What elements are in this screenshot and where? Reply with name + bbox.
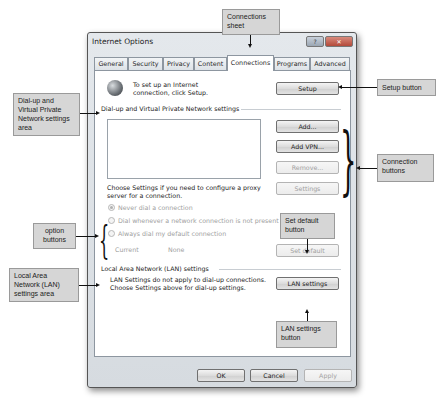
radio-always-dial[interactable]: Always dial my default connection (108, 230, 226, 237)
callout-connection-buttons: Connection buttons (377, 154, 434, 182)
add-vpn-button[interactable]: Add VPN... (276, 140, 339, 153)
tab-general[interactable]: General (94, 57, 128, 70)
callout-connections-sheet: Connections sheet (222, 9, 280, 35)
brace-left-icon: { (99, 219, 109, 259)
current-label: Current (115, 246, 139, 254)
ok-button[interactable]: OK (197, 369, 245, 382)
callout-set-default-button: Set default button (280, 213, 335, 239)
connections-list[interactable] (107, 119, 261, 179)
close-icon: ✕ (336, 38, 341, 45)
dialup-group-divider (241, 109, 341, 110)
callout-lan-settings-button: LAN settings button (276, 321, 337, 348)
arrow-up-icon (305, 309, 309, 313)
current-value: None (168, 246, 184, 254)
dialog-title: Internet Options (92, 37, 153, 46)
remove-button[interactable]: Remove... (276, 161, 339, 174)
lan-group-label: Local Area Network (LAN) settings (101, 265, 209, 272)
brace-right-icon: } (340, 123, 356, 197)
cancel-button[interactable]: Cancel (250, 369, 298, 382)
tab-content[interactable]: Content (194, 57, 227, 70)
arrow-down-icon (305, 250, 309, 254)
settings-button[interactable]: Settings (276, 182, 339, 195)
radio-label: Dial whenever a network connection is no… (118, 217, 279, 224)
setup-description: To set up an Internet connection, click … (133, 81, 233, 97)
callout-line (76, 236, 96, 237)
lan-group-divider (219, 269, 341, 270)
add-button[interactable]: Add... (276, 120, 339, 133)
lan-settings-button[interactable]: LAN settings (276, 277, 339, 290)
radio-never-dial[interactable]: Never dial a connection (108, 204, 193, 211)
callout-dialup-area: Dial-up and Virtual Private Network sett… (13, 93, 80, 136)
help-icon: ? (313, 38, 316, 45)
callout-line (341, 87, 377, 88)
arrow-left-icon (338, 85, 342, 89)
radio-label: Always dial my default connection (118, 230, 226, 237)
apply-button[interactable]: Apply (304, 369, 352, 382)
arrow-right-icon (96, 111, 100, 115)
globe-network-icon (107, 80, 123, 96)
setup-button[interactable]: Setup (276, 82, 339, 95)
tab-connections[interactable]: Connections (227, 55, 274, 71)
tab-programs[interactable]: Programs (274, 57, 310, 70)
radio-label: Never dial a connection (118, 204, 193, 211)
title-bar[interactable]: Internet Options ? ✕ (88, 33, 356, 51)
arrow-down-icon (248, 44, 252, 48)
lan-description: LAN Settings do not apply to dial-up con… (110, 276, 270, 292)
callout-line (79, 285, 97, 286)
arrow-right-icon (96, 283, 100, 287)
arrow-left-icon (356, 166, 360, 170)
proxy-description: Choose Settings if you need to configure… (107, 184, 267, 200)
help-button[interactable]: ? (306, 36, 324, 47)
callout-line (80, 113, 97, 114)
radio-dial-when-needed[interactable]: Dial whenever a network connection is no… (108, 217, 279, 224)
callout-setup-button: Setup button (377, 79, 436, 96)
radio-checked-icon (108, 204, 115, 211)
close-button[interactable]: ✕ (325, 36, 353, 47)
callout-option-buttons: option buttons (33, 223, 76, 249)
tab-privacy[interactable]: Privacy (163, 57, 194, 70)
tab-security[interactable]: Security (128, 57, 163, 70)
dialup-group-label: Dial-up and Virtual Private Network sett… (101, 105, 239, 112)
tab-advanced[interactable]: Advanced (310, 57, 350, 70)
callout-lan-area: Local Area Network (LAN) settings area (9, 268, 79, 302)
callout-line (358, 168, 377, 169)
